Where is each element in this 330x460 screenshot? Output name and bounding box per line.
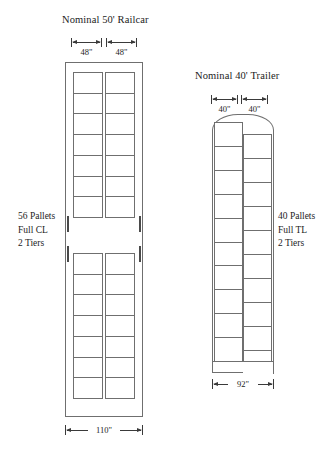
pallet-cell <box>74 378 102 398</box>
pallet-cell <box>244 159 271 183</box>
trailer-notes: 40 Pallets Full TL 2 Tiers <box>278 210 315 251</box>
pallet-cell <box>74 337 102 358</box>
pallet-cell <box>74 295 102 316</box>
railcar-left-pallet-dimension <box>71 38 102 47</box>
railcar-right-pallet-dimension <box>106 38 137 47</box>
trailer-right-pallet-dimension-label: 40" <box>241 104 268 114</box>
pallet-cell <box>106 316 134 337</box>
railcar-right-pallet-dimension-label: 48" <box>106 47 137 57</box>
railcar-section-b-right-column <box>105 253 135 399</box>
pallet-cell <box>244 279 271 303</box>
pallet-cell <box>74 275 102 296</box>
pallet-cell <box>74 197 102 217</box>
pallet-cell <box>244 135 271 159</box>
railcar-overall-width-label: 110" <box>88 425 120 435</box>
railcar-left-pallet-dimension-label: 48" <box>71 47 102 57</box>
trailer-right-column <box>243 134 272 374</box>
pallet-cell <box>74 358 102 379</box>
railcar-door-tick-right-upper <box>139 216 141 232</box>
pallet-cell <box>74 254 102 275</box>
pallet-cell <box>74 114 102 135</box>
pallet-cell <box>244 183 271 207</box>
pallet-cell <box>106 295 134 316</box>
pallet-cell <box>106 358 134 379</box>
railcar-overall-width-dimension: 110" <box>65 425 143 435</box>
railcar-note-tiers: 2 Tiers <box>18 237 55 251</box>
pallet-cell <box>215 123 242 147</box>
pallet-cell <box>215 338 242 361</box>
pallet-cell <box>215 195 242 219</box>
pallet-cell <box>106 275 134 296</box>
trailer-overall-width-label: 92" <box>228 379 258 389</box>
pallet-cell <box>74 73 102 94</box>
pallet-cell <box>244 207 271 231</box>
pallet-cell <box>244 231 271 255</box>
railcar-door-tick-left-lower <box>67 246 69 262</box>
trailer-right-column-clip <box>243 362 273 376</box>
pallet-cell <box>215 290 242 314</box>
pallet-cell <box>106 254 134 275</box>
railcar-section-b-left-column <box>73 253 103 399</box>
pallet-cell <box>106 114 134 135</box>
pallet-cell <box>106 135 134 156</box>
trailer-left-column <box>214 122 243 362</box>
railcar-note-load-type: Full CL <box>18 224 55 238</box>
railcar-section-a-left-column <box>73 72 103 218</box>
pallet-cell <box>74 177 102 198</box>
pallet-cell <box>215 219 242 243</box>
pallet-cell <box>244 303 271 327</box>
pallet-cell <box>74 135 102 156</box>
pallet-cell <box>106 177 134 198</box>
railcar-note-pallets: 56 Pallets <box>18 210 55 224</box>
pallet-cell <box>244 327 271 351</box>
trailer-note-pallets: 40 Pallets <box>278 210 315 224</box>
trailer-right-wall-lower <box>273 361 274 374</box>
railcar-title: Nominal 50' Railcar <box>62 14 149 25</box>
trailer-left-pallet-dimension-label: 40" <box>211 104 238 114</box>
pallet-cell <box>215 314 242 338</box>
railcar-section-a-right-column <box>105 72 135 218</box>
pallet-cell <box>215 266 242 290</box>
pallet-cell <box>106 197 134 217</box>
pallet-cell <box>106 94 134 115</box>
pallet-cell <box>106 73 134 94</box>
trailer-note-tiers: 2 Tiers <box>278 237 315 251</box>
pallet-loading-diagram: Nominal 50' Railcar 48" 48" <box>0 0 330 460</box>
trailer-right-pallet-dimension <box>241 95 268 104</box>
pallet-cell <box>215 243 242 267</box>
railcar-notes: 56 Pallets Full CL 2 Tiers <box>18 210 55 251</box>
railcar-door-tick-right-lower <box>139 246 141 262</box>
pallet-cell <box>74 94 102 115</box>
pallet-cell <box>215 171 242 195</box>
trailer-floor-line <box>212 361 274 362</box>
trailer-title: Nominal 40' Trailer <box>195 70 279 81</box>
pallet-cell <box>106 337 134 358</box>
pallet-cell <box>74 316 102 337</box>
pallet-cell <box>106 156 134 177</box>
pallet-cell <box>244 255 271 279</box>
pallet-cell <box>106 378 134 398</box>
railcar-door-tick-left-upper <box>67 216 69 232</box>
trailer-overall-width-dimension: 92" <box>212 379 274 389</box>
pallet-cell <box>215 147 242 171</box>
pallet-cell <box>74 156 102 177</box>
trailer-note-load-type: Full TL <box>278 224 315 238</box>
trailer-left-pallet-dimension <box>211 95 238 104</box>
